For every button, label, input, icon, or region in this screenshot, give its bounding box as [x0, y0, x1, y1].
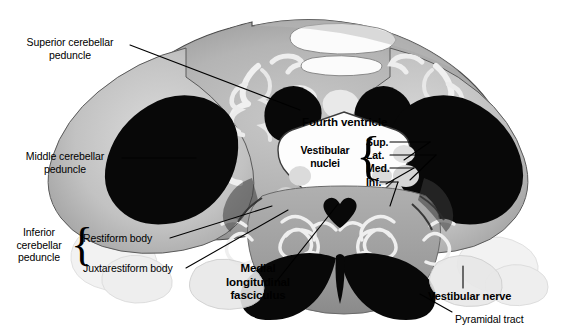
label-medial-longitudinal-fasciculus-line2: longitudinal	[212, 276, 304, 290]
label-inferior-cerebellar-peduncle-line3: peduncle	[6, 251, 72, 264]
label-superior-cerebellar-peduncle-line2: peduncle	[12, 49, 128, 62]
label-middle-cerebellar-peduncle-line1: Middle cerebellar	[10, 150, 120, 163]
label-middle-cerebellar-peduncle: Middle cerebellar peduncle	[10, 150, 120, 175]
label-vestibular-nuclei-line1: Vestibular	[294, 144, 356, 157]
lateral-vestibular-nucleus	[393, 165, 419, 187]
label-vestibular-nuclei-line2: nuclei	[294, 157, 356, 170]
label-pyramidal-tract: Pyramidal tract	[455, 313, 524, 326]
label-vestibular-inf: Inf.	[366, 176, 381, 189]
label-middle-cerebellar-peduncle-line2: peduncle	[10, 163, 120, 176]
superior-vestibular-nucleus	[393, 145, 415, 163]
label-vestibular-med: Med.	[366, 162, 390, 175]
label-restiform-body: Restiform body	[83, 232, 152, 245]
label-vestibular-sup: Sup.	[366, 136, 388, 149]
label-vestibular-lat: Lat.	[366, 149, 384, 162]
label-vestibular-nerve: Vestibular nerve	[428, 290, 511, 303]
label-vestibular-nuclei: Vestibular nuclei	[294, 144, 356, 169]
label-medial-longitudinal-fasciculus-line1: Medial	[212, 262, 304, 276]
label-inferior-cerebellar-peduncle-line2: cerebellar	[6, 239, 72, 252]
label-inferior-cerebellar-peduncle: Inferior cerebellar peduncle	[6, 226, 72, 264]
label-inferior-cerebellar-peduncle-line1: Inferior	[6, 226, 72, 239]
label-medial-longitudinal-fasciculus: Medial longitudinal fasciculus	[212, 262, 304, 303]
label-superior-cerebellar-peduncle-line1: Superior cerebellar	[12, 36, 128, 49]
anatomical-figure: Superior cerebellar peduncle Middle cere…	[0, 0, 576, 333]
label-juxtarestiform-body: Juxtarestiform body	[83, 262, 173, 275]
label-medial-longitudinal-fasciculus-line3: fasciculus	[212, 289, 304, 303]
label-superior-cerebellar-peduncle: Superior cerebellar peduncle	[12, 36, 128, 61]
